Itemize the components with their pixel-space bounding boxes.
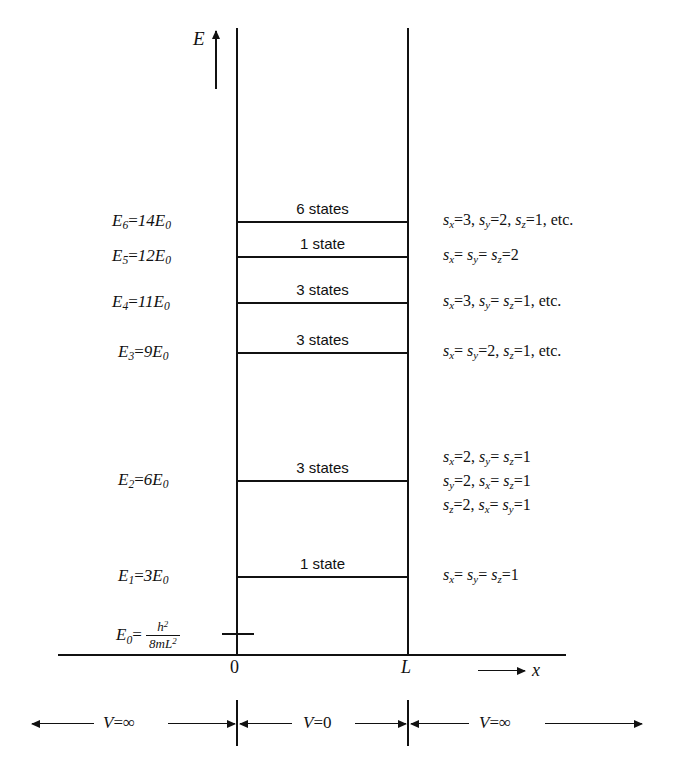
level-label-e3-val: 9E — [144, 342, 163, 361]
qn-e3-1-val: 2, — [487, 342, 499, 359]
level-label-e6-valsub: 0 — [165, 219, 171, 232]
qn-e4-0-val: 3, — [463, 292, 475, 309]
degeneracy-label-e1: 1 state — [236, 555, 409, 572]
quantum-numbers-e5: sx= sy= sz=2 — [443, 246, 519, 265]
potential-middle-sym: V — [303, 713, 313, 732]
qn-e3-2-eq: = — [514, 342, 523, 359]
qn-e6-1-eq: = — [490, 211, 499, 228]
region-arrow-middle-start — [240, 723, 292, 724]
level-label-e2-valsub: 0 — [163, 478, 169, 491]
potential-right-sym: V — [479, 713, 489, 732]
region-arrow-right-start — [411, 723, 469, 724]
level-label-e6-sym: E — [112, 211, 122, 230]
level-label-e5: E5=12E0 — [112, 246, 171, 267]
potential-middle-val: 0 — [323, 713, 332, 732]
quantum-numbers-e4: sx=3, sy= sz=1, etc. — [443, 292, 561, 311]
qn-e1-2-val: 1 — [511, 566, 519, 583]
level-label-e4-valsub: 0 — [164, 300, 170, 313]
potential-left-val: ∞ — [123, 713, 135, 732]
quantum-numbers-e6: sx=3, sy=2, sz=1, etc. — [443, 211, 573, 230]
potential-middle-eq: = — [313, 713, 323, 732]
qn-e2c-0-eq: = — [453, 496, 462, 513]
qn-e2c-2-eq: = — [514, 496, 523, 513]
qn-e2a-0-eq: = — [454, 448, 463, 465]
qn-e2c-2-val: 1 — [523, 496, 531, 513]
ground-level-tick — [222, 633, 254, 635]
ground-energy-label: E0= h2 8mL2 — [116, 620, 180, 653]
potential-left-sym: V — [103, 713, 113, 732]
ground-energy-num-exp: 2 — [164, 619, 168, 629]
level-label-e3-eq: = — [134, 342, 144, 361]
x-axis-label: x — [532, 660, 540, 681]
level-label-e1: E1=3E0 — [118, 566, 168, 587]
level-line-e6 — [236, 221, 409, 223]
level-label-e2-val: 6E — [144, 470, 163, 489]
region-divider-left — [236, 700, 238, 746]
level-label-e5-val: 12E — [138, 246, 165, 265]
level-label-e4-val: 11E — [138, 292, 164, 311]
qn-e5-2-val: 2 — [511, 246, 519, 263]
qn-e4-2-eq: = — [514, 292, 523, 309]
qn-e5-2-eq: = — [502, 246, 511, 263]
quantum-numbers-e1: sx= sy= sz=1 — [443, 566, 519, 585]
qn-e4-0-eq: = — [454, 292, 463, 309]
level-label-e6: E6=14E0 — [112, 211, 171, 232]
level-label-e5-eq: = — [128, 246, 138, 265]
level-label-e1-sym: E — [118, 566, 128, 585]
qn-e5-1-eq: = — [478, 246, 487, 263]
level-label-e6-eq: = — [128, 211, 138, 230]
degeneracy-label-e3: 3 states — [236, 331, 409, 348]
qn-e2c-1-eq: = — [490, 496, 499, 513]
qn-e2b-0-val: 2, — [463, 472, 475, 489]
qn-e4-1-eq: = — [490, 292, 499, 309]
level-line-e3 — [236, 352, 409, 354]
qn-e2a-2-val: 1 — [523, 448, 531, 465]
qn-e1-1-eq: = — [478, 566, 487, 583]
qn-e5-0-eq: = — [454, 246, 463, 263]
level-line-e5 — [236, 256, 409, 258]
ground-energy-numerator: h2 — [146, 619, 180, 635]
x-axis-baseline — [58, 654, 566, 656]
qn-e3-1-eq: = — [478, 342, 487, 359]
potential-left-eq: = — [113, 713, 123, 732]
energy-axis-label: E — [193, 28, 205, 50]
degeneracy-label-e6: 6 states — [236, 200, 409, 217]
level-label-e4-sym: E — [112, 292, 122, 311]
level-label-e2-eq: = — [134, 470, 144, 489]
qn-e2b-2-val: 1 — [523, 472, 531, 489]
region-arrow-right-end — [545, 723, 642, 724]
qn-e3-2-val: 1, etc. — [523, 342, 562, 359]
degeneracy-label-e5: 1 state — [236, 235, 409, 252]
qn-e2c-0-val: 2, — [463, 496, 475, 513]
qn-e1-0-eq: = — [454, 566, 463, 583]
ground-energy-sym: E — [116, 625, 126, 644]
quantum-numbers-e2-a: sx=2, sy= sz=1 — [443, 448, 531, 467]
potential-right-val: ∞ — [499, 713, 511, 732]
level-label-e4-eq: = — [128, 292, 138, 311]
region-arrow-left-end — [168, 723, 235, 724]
qn-e1-2-eq: = — [502, 566, 511, 583]
level-label-e1-valsub: 0 — [163, 574, 169, 587]
potential-label-left: V=∞ — [103, 713, 135, 733]
level-label-e3: E3=9E0 — [118, 342, 168, 363]
potential-label-middle: V=0 — [303, 713, 331, 733]
level-label-e2: E2=6E0 — [118, 470, 168, 491]
level-label-e3-sym: E — [118, 342, 128, 361]
region-arrow-middle-end — [355, 723, 406, 724]
region-divider-right — [407, 700, 409, 746]
qn-e6-1-val: 2, — [499, 211, 511, 228]
ground-energy-den-base: 8mL — [149, 636, 172, 651]
level-label-e2-sym: E — [118, 470, 128, 489]
qn-e2b-2-eq: = — [514, 472, 523, 489]
qn-e6-0-eq: = — [454, 211, 463, 228]
potential-right-eq: = — [489, 713, 499, 732]
qn-e2b-1-eq: = — [490, 472, 499, 489]
level-line-e2 — [236, 480, 409, 482]
level-label-e5-valsub: 0 — [165, 254, 171, 267]
qn-e2a-2-eq: = — [514, 448, 523, 465]
ground-energy-eq: = — [132, 625, 142, 644]
degeneracy-label-e4: 3 states — [236, 281, 409, 298]
energy-axis-arrow — [215, 31, 217, 89]
level-label-e4: E4=11E0 — [112, 292, 170, 313]
level-label-e1-eq: = — [134, 566, 144, 585]
